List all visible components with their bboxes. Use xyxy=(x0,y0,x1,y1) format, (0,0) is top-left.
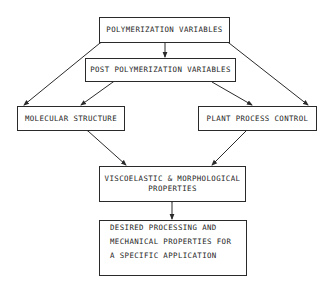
node-molecular-structure: MOLECULAR STRUCTURE xyxy=(17,106,125,131)
arrow-plant-visco xyxy=(212,131,246,165)
arrow-post-molecular xyxy=(81,82,113,105)
node-label-line-1: VISCOELASTIC & MORPHOLOGICAL xyxy=(105,174,241,184)
node-label: POLYMERIZATION VARIABLES xyxy=(106,25,222,35)
node-plant-process-control: PLANT PROCESS CONTROL xyxy=(198,106,317,131)
arrow-molecular-visco xyxy=(88,131,126,165)
node-desired-properties: DESIRED PROCESSING AND MECHANICAL PROPER… xyxy=(99,220,247,276)
arrow-poly-plant xyxy=(229,43,308,105)
node-label: POST POLYMERIZATION VARIABLES xyxy=(90,65,231,75)
node-viscoelastic-morphological-properties: VISCOELASTIC & MORPHOLOGICAL PROPERTIES xyxy=(99,166,246,202)
flow-diagram: POLYMERIZATION VARIABLES POST POLYMERIZA… xyxy=(0,0,334,289)
arrow-post-plant xyxy=(212,82,252,105)
node-polymerization-variables: POLYMERIZATION VARIABLES xyxy=(99,17,230,43)
node-label: PLANT PROCESS CONTROL xyxy=(207,114,309,124)
node-label-line-2: MECHANICAL PROPERTIES FOR xyxy=(110,235,231,249)
node-label-line-1: DESIRED PROCESSING AND xyxy=(110,221,217,235)
node-post-polymerization-variables: POST POLYMERIZATION VARIABLES xyxy=(85,58,236,82)
node-label: MOLECULAR STRUCTURE xyxy=(25,114,117,124)
node-label-line-3: A SPECIFIC APPLICATION xyxy=(110,249,217,263)
node-label-line-2: PROPERTIES xyxy=(148,184,197,194)
